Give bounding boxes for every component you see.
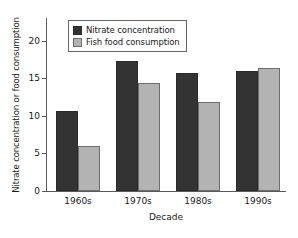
y-tick-label: 10 bbox=[29, 111, 40, 121]
legend-label: Fish food consumption bbox=[86, 37, 180, 47]
y-tick-mark bbox=[42, 153, 46, 154]
y-tick-mark bbox=[42, 116, 46, 117]
y-tick-label: 5 bbox=[34, 148, 40, 158]
y-tick-label: 20 bbox=[29, 36, 40, 46]
legend-swatch-icon bbox=[73, 38, 82, 47]
y-tick-mark bbox=[42, 78, 46, 79]
x-axis-line bbox=[46, 191, 286, 192]
bar-1980s-nitrate bbox=[176, 73, 198, 191]
bar-1960s-fish-food bbox=[78, 146, 100, 191]
x-tick-label-1990s: 1990s bbox=[244, 196, 272, 206]
y-tick-label: 15 bbox=[29, 73, 40, 83]
y-tick-mark bbox=[42, 41, 46, 42]
legend-label: Nitrate concentration bbox=[86, 25, 175, 35]
y-tick-label: 0 bbox=[34, 186, 40, 196]
legend-item: Fish food consumption bbox=[73, 36, 180, 48]
chart-legend: Nitrate concentrationFish food consumpti… bbox=[68, 20, 187, 52]
y-tick-mark bbox=[42, 191, 46, 192]
bar-1990s-fish-food bbox=[258, 68, 280, 191]
bar-group bbox=[236, 18, 280, 191]
legend-swatch-icon bbox=[73, 26, 82, 35]
bar-1970s-fish-food bbox=[138, 83, 160, 191]
y-axis-title: Nitrate concentration or food consumptio… bbox=[11, 15, 21, 195]
bar-chart: Nitrate concentration or food consumptio… bbox=[0, 0, 298, 238]
x-tick-label-1960s: 1960s bbox=[64, 196, 92, 206]
legend-item: Nitrate concentration bbox=[73, 24, 180, 36]
bar-1970s-nitrate bbox=[116, 61, 138, 191]
x-tick-label-1970s: 1970s bbox=[124, 196, 152, 206]
bar-1990s-nitrate bbox=[236, 71, 258, 191]
x-tick-label-1980s: 1980s bbox=[184, 196, 212, 206]
y-axis-line bbox=[46, 18, 47, 192]
bar-1960s-nitrate bbox=[56, 111, 78, 191]
bar-1980s-fish-food bbox=[198, 102, 220, 192]
x-axis-title: Decade bbox=[46, 212, 286, 222]
